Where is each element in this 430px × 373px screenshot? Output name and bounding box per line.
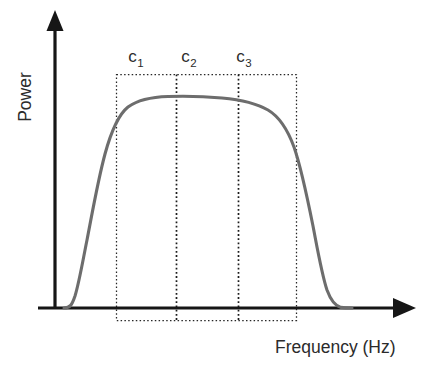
x-axis-arrowhead xyxy=(393,298,416,318)
y-axis-title: Power xyxy=(15,72,35,122)
spectrum-figure: c1 c2 c3 Power Frequency (Hz) xyxy=(0,0,430,373)
channel-label-c1: c1 xyxy=(128,47,143,69)
power-spectrum-chart: c1 c2 c3 Power Frequency (Hz) xyxy=(0,0,430,373)
x-axis-title: Frequency (Hz) xyxy=(275,337,396,357)
power-spectrum-curve xyxy=(64,96,352,308)
y-axis-arrowhead xyxy=(47,10,64,31)
channel-label-c3: c3 xyxy=(236,47,251,69)
channel-label-c2: c2 xyxy=(181,47,196,69)
